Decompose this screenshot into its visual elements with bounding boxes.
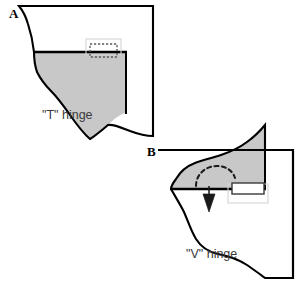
panel-a-letter: A (9, 6, 19, 21)
panel-a-caption: "T" hinge (42, 108, 93, 122)
figure-root: A "T" hinge (0, 0, 303, 284)
panel-b-letter: B (147, 144, 156, 159)
hinge-diagram: A "T" hinge (0, 0, 303, 284)
panel-b-solid-rectangle (232, 183, 264, 194)
panel-b-caption: "V" hinge (186, 247, 237, 261)
